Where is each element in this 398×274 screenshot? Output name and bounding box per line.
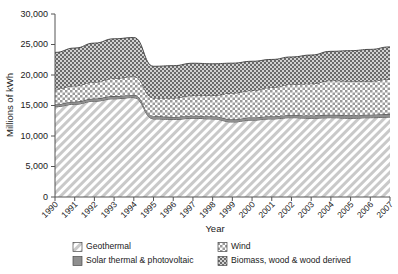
y-tick-label: 0 xyxy=(43,192,48,202)
x-tick-label: 1995 xyxy=(138,199,159,220)
legend-label: Geothermal xyxy=(86,241,131,251)
x-tick-label: 1991 xyxy=(59,199,80,220)
legend-label: Solar thermal & photovoltaic xyxy=(86,255,194,265)
legend-swatch-biomass-wood-wood-derived xyxy=(218,257,227,266)
x-tick-label: 1993 xyxy=(99,199,120,220)
x-tick-label: 1994 xyxy=(118,199,139,220)
stacked-area-chart: 05,00010,00015,00020,00025,00030,0001990… xyxy=(0,0,398,274)
legend-label: Biomass, wood & wood derived xyxy=(231,255,351,265)
y-axis-title: Millions of kWh xyxy=(4,73,15,137)
x-tick-label: 1999 xyxy=(217,199,238,220)
x-tick-label: 2006 xyxy=(355,199,376,220)
legend-swatch-solar-thermal-photovoltaic xyxy=(73,257,82,266)
chart-legend: GeothermalWindSolar thermal & photovolta… xyxy=(73,241,351,265)
y-tick-label: 30,000 xyxy=(20,9,48,19)
x-tick-label: 2007 xyxy=(374,199,395,220)
x-tick-label: 2005 xyxy=(335,199,356,220)
x-tick-label: 1996 xyxy=(158,199,179,220)
x-tick-label: 1992 xyxy=(79,199,100,220)
legend-swatch-wind xyxy=(218,243,227,252)
legend-swatch-geothermal xyxy=(73,243,82,252)
y-tick-label: 5,000 xyxy=(25,161,48,171)
plot-area xyxy=(55,38,390,197)
y-tick-label: 15,000 xyxy=(20,100,48,110)
y-tick-label: 10,000 xyxy=(20,131,48,141)
x-tick-label: 1997 xyxy=(177,199,198,220)
x-tick-label: 2002 xyxy=(276,199,297,220)
x-tick-label: 2000 xyxy=(237,199,258,220)
x-axis-title: Year xyxy=(205,223,224,234)
y-tick-label: 25,000 xyxy=(20,39,48,49)
y-tick-label: 20,000 xyxy=(20,70,48,80)
x-tick-label: 1990 xyxy=(39,199,60,220)
x-tick-label: 2003 xyxy=(296,199,317,220)
legend-label: Wind xyxy=(231,241,251,251)
chart-container: 05,00010,00015,00020,00025,00030,0001990… xyxy=(0,0,398,274)
x-tick-label: 2001 xyxy=(256,199,277,220)
x-tick-label: 1998 xyxy=(197,199,218,220)
x-tick-label: 2004 xyxy=(315,199,336,220)
